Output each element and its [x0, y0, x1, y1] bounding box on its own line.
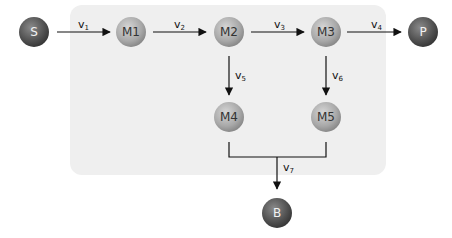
svg-text:M4: M4 — [220, 110, 238, 124]
metabolic-network-diagram: v1 v2 v3 v4 v5 v6 v7 S M1 M2 M3 P M4 M5 … — [0, 0, 452, 238]
node-M5: M5 — [311, 102, 341, 132]
svg-text:B: B — [273, 206, 281, 220]
node-B: B — [262, 198, 292, 228]
svg-text:M3: M3 — [317, 25, 335, 39]
svg-text:P: P — [419, 25, 426, 39]
node-P: P — [408, 17, 438, 47]
svg-text:S: S — [30, 25, 38, 39]
svg-text:M5: M5 — [317, 110, 335, 124]
node-M3: M3 — [311, 17, 341, 47]
svg-text:M1: M1 — [122, 25, 140, 39]
svg-text:M2: M2 — [220, 25, 238, 39]
node-M1: M1 — [116, 17, 146, 47]
node-S: S — [19, 17, 49, 47]
node-M2: M2 — [214, 17, 244, 47]
node-M4: M4 — [214, 102, 244, 132]
